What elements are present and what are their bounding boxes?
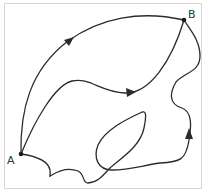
arrowhead-icon [126, 88, 136, 97]
arrowhead-icon [64, 37, 74, 46]
arrowhead-icon [185, 128, 193, 139]
point-a-label: A [7, 155, 15, 166]
point-b-label: B [188, 9, 196, 20]
path-diagram [0, 0, 208, 196]
point-b-marker [182, 18, 187, 23]
top-arc-path [21, 16, 184, 154]
point-a-marker [19, 152, 24, 157]
middle-curve-path [21, 20, 184, 154]
